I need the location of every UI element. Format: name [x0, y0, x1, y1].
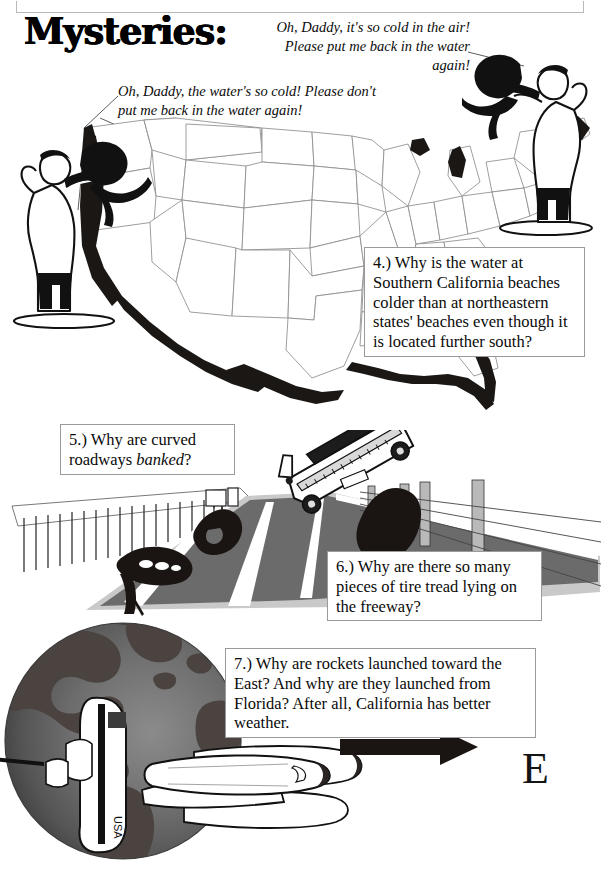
shuttle-usa-text: USA	[112, 816, 124, 839]
father-and-child-right	[462, 42, 601, 242]
east-label: E	[522, 747, 549, 791]
question-box-5: 5.) Why are curved roadways banked?	[60, 424, 235, 475]
speech-left: Oh, Daddy, the water's so cold! Please d…	[118, 82, 393, 120]
father-and-child-left	[4, 133, 154, 333]
tail-stripe	[98, 704, 105, 844]
worksheet-page: Mysteries:	[0, 0, 601, 881]
speech-right: Oh, Daddy, it's so cold in the air! Plea…	[255, 18, 470, 75]
question-5-emphasis: banked	[136, 450, 184, 469]
question-box-7: 7.) Why are rockets launched toward the …	[225, 648, 536, 738]
question-box-6: 6.) Why are there so many pieces of tire…	[327, 551, 542, 621]
question-5-text-after: ?	[184, 450, 191, 469]
question-box-4: 4.) Why is the water at Southern Califor…	[364, 247, 585, 357]
